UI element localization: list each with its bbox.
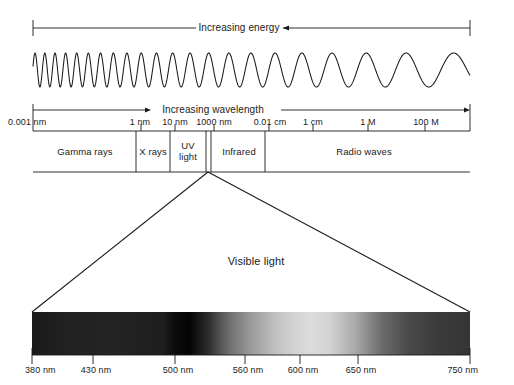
wavelength-axis-label: Increasing wavelength — [162, 105, 264, 115]
wavelength-tick-label-7: 100 M — [413, 118, 439, 127]
wavelength-tick-label-6: 1 M — [360, 118, 375, 127]
wavelength-tick-label-3: 1000 nm — [196, 118, 232, 127]
visible-light-funnel — [32, 172, 470, 312]
funnel-right-edge — [208, 172, 470, 312]
electromagnetic-spectrum-figure: Increasing energy Increasing wavelength … — [0, 0, 514, 385]
wavelength-arrow-right-icon-b — [464, 108, 470, 113]
visible-light-label: Visible light — [228, 256, 285, 267]
visible-spectrum-band — [32, 312, 470, 355]
spectrum-tick-label-0: 380 nm — [25, 366, 56, 375]
band-label-x-rays: X rays — [139, 147, 167, 157]
energy-axis-label: Increasing energy — [198, 23, 279, 33]
wavelength-tick-label-5: 1 cm — [303, 118, 323, 127]
band-label-radio-waves: Radio waves — [336, 147, 392, 157]
wavelength-arrow-right-icon-a — [145, 108, 151, 113]
wavelength-tick-label-0: 0.001 nm — [8, 118, 46, 127]
spectrum-tick-label-5: 650 nm — [346, 366, 377, 375]
energy-arrow-left-icon — [283, 26, 289, 31]
spectrum-tick-label-3: 560 nm — [233, 366, 264, 375]
wavelength-tick-label-1: 1 nm — [130, 118, 150, 127]
band-label-infrared: Infrared — [222, 147, 256, 157]
band-label-uv-line-1: UV — [179, 140, 197, 151]
wavelength-tick-label-2: 10 nm — [162, 118, 188, 127]
funnel-left-edge — [32, 172, 208, 312]
band-label-uv-line-2: light — [179, 151, 197, 162]
spectrum-tick-label-6: 750 nm — [447, 366, 478, 375]
band-label-uv-light: UV light — [179, 140, 197, 162]
wavelength-tick-label-4: 0.01 cm — [254, 118, 287, 127]
spectrum-tick-label-4: 600 nm — [288, 366, 319, 375]
sine-wave — [33, 53, 470, 87]
band-label-gamma-rays: Gamma rays — [57, 147, 112, 157]
diagram-vector-layer — [0, 0, 514, 385]
spectrum-tick-label-2: 500 nm — [163, 366, 194, 375]
spectrum-tick-label-1: 430 nm — [81, 366, 112, 375]
